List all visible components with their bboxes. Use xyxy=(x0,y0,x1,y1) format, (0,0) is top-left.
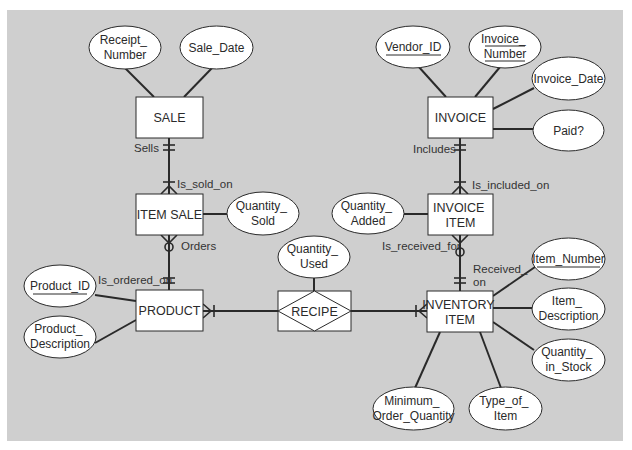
attribute-product-id[interactable]: Product_ID xyxy=(24,265,96,307)
entity-sale[interactable]: SALE xyxy=(136,97,203,138)
entity-label: PRODUCT xyxy=(139,304,201,318)
diagram-background xyxy=(7,10,623,441)
attribute-paid[interactable]: Paid? xyxy=(533,110,604,151)
attribute-receipt-number[interactable]: Receipt_ Number xyxy=(89,26,161,69)
svg-text:Product_ Description: Product_ Description xyxy=(30,322,90,351)
entity-invoice-item[interactable]: INVOICE ITEM xyxy=(428,194,493,235)
svg-text:Item_Number: Item_Number xyxy=(532,252,605,266)
er-diagram: Sells Is_sold_on Orders Is_ordered_on In… xyxy=(0,0,632,450)
attribute-quantity-used[interactable]: Quantity_ Used xyxy=(278,236,350,278)
attribute-sale-date[interactable]: Sale_Date xyxy=(180,26,253,69)
relationship-label-orders: Orders xyxy=(181,240,216,252)
relationship-label-is-ordered-on: Is_ordered_on xyxy=(98,274,172,286)
svg-text:Minimum_ Order_Quantity: Minimum_ Order_Quantity xyxy=(372,394,454,423)
relationship-label-includes: Includes xyxy=(413,143,456,155)
relationship-label-is-sold-on: Is_sold_on xyxy=(177,178,233,190)
svg-text:Sale_Date: Sale_Date xyxy=(188,41,244,55)
attribute-item-description[interactable]: Item_ Description xyxy=(532,288,605,330)
entity-label: RECIPE xyxy=(291,305,338,319)
svg-text:Product_ID: Product_ID xyxy=(30,279,90,293)
svg-text:Paid?: Paid? xyxy=(553,124,584,138)
svg-text:Quantity_ in_Stock: Quantity_ in_Stock xyxy=(541,345,596,374)
attribute-quantity-added[interactable]: Quantity_ Added xyxy=(332,193,404,234)
svg-text:Receipt_ Number: Receipt_ Number xyxy=(100,33,151,62)
associative-entity-recipe[interactable]: RECIPE xyxy=(278,291,351,331)
attribute-invoice-date[interactable]: Invoice_Date xyxy=(532,57,605,100)
attribute-minimum-order-quantity[interactable]: Minimum_ Order_Quantity xyxy=(372,387,454,430)
entity-label: ITEM SALE xyxy=(137,208,202,222)
svg-text:Invoice_Date: Invoice_Date xyxy=(533,72,603,86)
attribute-quantity-in-stock[interactable]: Quantity_ in_Stock xyxy=(532,339,605,381)
relationship-label-is-included-on: Is_included_on xyxy=(472,179,549,191)
relationship-label-is-received-for: Is_received_for xyxy=(382,240,461,252)
entity-item-sale[interactable]: ITEM SALE xyxy=(136,194,203,235)
attribute-type-of-item[interactable]: Type_of_ Item xyxy=(469,387,542,430)
entity-label: INVOICE xyxy=(435,111,486,125)
attribute-vendor-id[interactable]: Vendor_ID xyxy=(376,26,450,68)
attribute-item-number[interactable]: Item_Number xyxy=(532,238,605,280)
entity-inventory-item[interactable]: INVENTORY ITEM xyxy=(422,291,498,332)
entity-invoice[interactable]: INVOICE xyxy=(428,97,493,138)
svg-text:Vendor_ID: Vendor_ID xyxy=(385,40,442,54)
attribute-invoice-number[interactable]: Invoice_ Number xyxy=(469,26,541,68)
relationship-label-sells: Sells xyxy=(134,142,159,154)
attribute-product-description[interactable]: Product_ Description xyxy=(24,316,96,358)
entity-label: SALE xyxy=(154,111,186,125)
entity-product[interactable]: PRODUCT xyxy=(136,290,203,331)
attribute-quantity-sold[interactable]: Quantity_ Sold xyxy=(227,192,299,235)
